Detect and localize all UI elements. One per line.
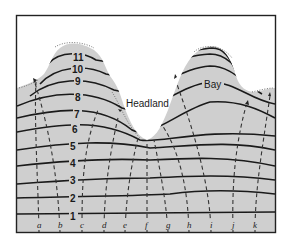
orth-label-e: e [123, 220, 127, 230]
orth-label-a: a [37, 220, 42, 230]
orth-label-j: j [231, 220, 235, 230]
orth-label-b: b [58, 220, 63, 230]
orth-label-h: h [187, 220, 192, 230]
water-region [17, 44, 275, 232]
orth-label-d: d [102, 220, 107, 230]
crest-label-7: 7 [74, 109, 80, 120]
crest-label-4: 4 [70, 158, 76, 169]
crest-label-8: 8 [75, 92, 81, 103]
crest-label-10: 10 [72, 64, 84, 75]
crest-label-1: 1 [70, 211, 76, 222]
crest-label-3: 3 [70, 175, 76, 186]
crest-label-9: 9 [75, 76, 81, 87]
wave-refraction-diagram: 1 2 3 4 5 6 7 8 9 10 11 a b c d e f g [0, 0, 287, 244]
crest-label-6: 6 [72, 124, 78, 135]
orth-label-g: g [166, 220, 171, 230]
crest-label-2: 2 [70, 193, 76, 204]
bay-label: Bay [204, 79, 221, 90]
crest-label-5: 5 [70, 141, 76, 152]
headland-label: Headland [126, 98, 169, 109]
orth-label-c: c [80, 220, 84, 230]
crest-label-11: 11 [73, 52, 84, 63]
diagram-canvas: 1 2 3 4 5 6 7 8 9 10 11 a b c d e f g [0, 0, 287, 244]
